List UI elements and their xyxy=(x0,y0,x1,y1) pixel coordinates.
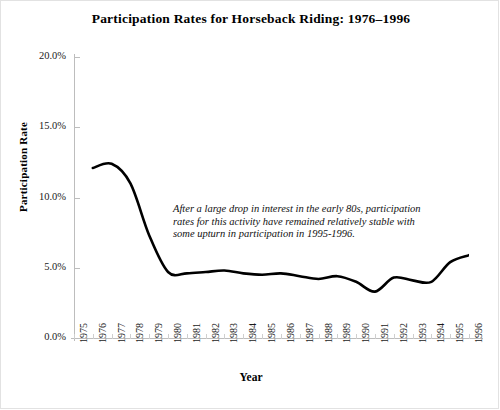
y-axis-tick-label: 20.0% xyxy=(6,50,66,61)
x-axis-tick xyxy=(93,334,94,339)
y-axis-tick-label: 5.0% xyxy=(6,261,66,272)
x-axis-tick xyxy=(413,334,414,339)
x-axis-tick xyxy=(262,334,263,339)
x-axis-tick-label: 1988 xyxy=(323,323,334,343)
x-axis-tick-label: 1995 xyxy=(454,323,465,343)
x-axis-tick xyxy=(206,334,207,339)
x-axis-tick xyxy=(356,334,357,339)
x-axis-tick xyxy=(300,334,301,339)
x-axis-tick-label: 1992 xyxy=(398,323,409,343)
x-axis-tick xyxy=(149,334,150,339)
x-axis-tick xyxy=(168,334,169,339)
x-axis-tick xyxy=(243,334,244,339)
x-axis-tick xyxy=(394,334,395,339)
x-axis-tick-label: 1985 xyxy=(266,323,277,343)
chart-frame: Participation Rates for Horseback Riding… xyxy=(0,0,499,409)
x-axis-tick-label: 1994 xyxy=(435,323,446,343)
x-axis-tick xyxy=(375,334,376,339)
x-axis-tick-label: 1989 xyxy=(341,323,352,343)
x-axis-tick-label: 1980 xyxy=(172,323,183,343)
y-axis-tick-label: 10.0% xyxy=(6,191,66,202)
x-axis-tick xyxy=(130,334,131,339)
y-axis-tick-label: 15.0% xyxy=(6,120,66,131)
x-axis-tick xyxy=(281,334,282,339)
line-series-svg xyxy=(74,57,469,338)
x-axis-tick xyxy=(112,334,113,339)
x-axis-tick-label: 1991 xyxy=(379,323,390,343)
x-axis-tick-label: 1981 xyxy=(191,323,202,343)
x-axis-tick xyxy=(224,334,225,339)
x-axis-tick xyxy=(319,334,320,339)
x-axis-tick xyxy=(450,334,451,339)
x-axis-tick-label: 1977 xyxy=(116,323,127,343)
plot-area xyxy=(74,57,469,338)
x-axis-tick-label: 1986 xyxy=(285,323,296,343)
x-axis-title: Year xyxy=(1,371,500,383)
x-axis-tick-label: 1983 xyxy=(228,323,239,343)
x-axis-tick xyxy=(187,334,188,339)
x-axis-tick xyxy=(74,334,75,339)
x-axis-tick-label: 1982 xyxy=(210,323,221,343)
y-axis-tick-label: 0.0% xyxy=(6,331,66,342)
annotation-line-3: some upturn in participation in 1995-199… xyxy=(173,228,449,241)
chart-annotation: After a large drop in interest in the ea… xyxy=(173,203,449,241)
annotation-line-2: rates for this activity have remained re… xyxy=(173,216,449,229)
x-axis-tick-label: 1975 xyxy=(78,323,89,343)
x-axis-tick xyxy=(431,334,432,339)
x-axis-tick xyxy=(469,334,470,339)
x-axis-tick-label: 1993 xyxy=(417,323,428,343)
chart-title: Participation Rates for Horseback Riding… xyxy=(1,11,500,27)
annotation-line-1: After a large drop in interest in the ea… xyxy=(173,203,449,216)
x-axis-tick-label: 1979 xyxy=(153,323,164,343)
x-axis-tick xyxy=(337,334,338,339)
x-axis-tick-label: 1978 xyxy=(134,323,145,343)
x-axis-tick-label: 1984 xyxy=(247,323,258,343)
x-axis-tick-label: 1990 xyxy=(360,323,371,343)
x-axis-tick-label: 1987 xyxy=(304,323,315,343)
x-axis-tick-label: 1976 xyxy=(97,323,108,343)
x-axis-tick-label: 1996 xyxy=(473,323,484,343)
